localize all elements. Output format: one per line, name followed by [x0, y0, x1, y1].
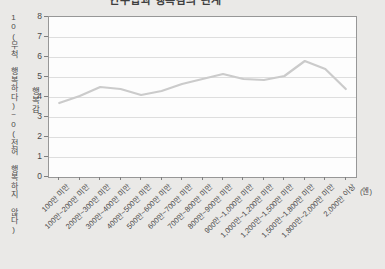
x-tick-mark	[140, 177, 141, 180]
y-tick-mark	[44, 156, 48, 157]
x-tick-mark	[263, 177, 264, 180]
x-tick-mark	[345, 177, 346, 180]
y-tick-label: 1	[24, 151, 42, 161]
y-tick-label: 8	[24, 11, 42, 21]
y-tick-mark	[44, 36, 48, 37]
x-tick-mark	[161, 177, 162, 180]
x-tick-mark	[181, 177, 182, 180]
x-tick-mark	[79, 177, 80, 180]
x-axis-unit-label: (엔)	[360, 185, 372, 196]
y-tick-label: 4	[24, 91, 42, 101]
y-tick-label: 2	[24, 131, 42, 141]
happiness-line	[59, 61, 346, 103]
y-tick-label: 3	[24, 111, 42, 121]
y-tick-mark	[44, 96, 48, 97]
x-tick-mark	[120, 177, 121, 180]
y-tick-label: 5	[24, 71, 42, 81]
chart-page: 연수입과 행복감의 관계 10(무척 행복하다)~0(전혀 행복하지 않다) 행…	[0, 0, 385, 269]
y-tick-mark	[44, 76, 48, 77]
happiness-line-chart	[49, 17, 356, 177]
y-tick-label: 6	[24, 51, 42, 61]
y-tick-mark	[44, 176, 48, 177]
x-tick-mark	[58, 177, 59, 180]
y-tick-mark	[44, 56, 48, 57]
x-tick-mark	[304, 177, 305, 180]
chart-title: 연수입과 행복감의 관계	[18, 0, 313, 3]
y-axis-scale-annotation: 10(무척 행복하다)~0(전혀 행복하지 않다)	[7, 13, 20, 223]
plot-area	[48, 16, 357, 178]
x-tick-mark	[283, 177, 284, 180]
x-tick-mark	[99, 177, 100, 180]
y-tick-label: 0	[24, 171, 42, 181]
x-tick-mark	[222, 177, 223, 180]
x-tick-mark	[242, 177, 243, 180]
y-tick-label: 7	[24, 31, 42, 41]
x-tick-mark	[202, 177, 203, 180]
y-tick-mark	[44, 16, 48, 17]
y-tick-mark	[44, 116, 48, 117]
x-tick-mark	[324, 177, 325, 180]
y-tick-mark	[44, 136, 48, 137]
